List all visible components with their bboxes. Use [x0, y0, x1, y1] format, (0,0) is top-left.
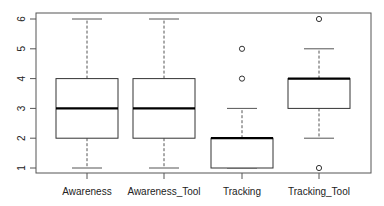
box-tracking-tool: [288, 16, 350, 170]
plot-svg: 123456 AwarenessAwareness_ToolTrackingTr…: [0, 0, 384, 206]
y-tick-label: 4: [16, 75, 27, 81]
boxes: [56, 16, 350, 170]
x-tick-label: Awareness_Tool: [127, 186, 200, 197]
x-tick-label: Awareness: [62, 186, 111, 197]
y-tick-label: 1: [16, 165, 27, 171]
outlier-point: [239, 46, 244, 51]
y-tick-label: 6: [16, 16, 27, 22]
outlier-point: [316, 16, 321, 21]
box-awareness: [56, 19, 118, 168]
boxplot-chart: 123456 AwarenessAwareness_ToolTrackingTr…: [0, 0, 384, 206]
x-tick-label: Tracking_Tool: [288, 186, 350, 197]
outlier-point: [316, 165, 321, 170]
iqr-box: [288, 79, 350, 109]
iqr-box: [211, 138, 273, 168]
outlier-point: [239, 76, 244, 81]
box-awareness-tool: [133, 19, 195, 168]
y-tick-label: 5: [16, 46, 27, 52]
y-axis: 123456: [16, 16, 36, 171]
y-tick-label: 2: [16, 135, 27, 141]
x-tick-label: Tracking: [223, 186, 261, 197]
box-tracking: [211, 46, 273, 168]
y-tick-label: 3: [16, 105, 27, 111]
x-axis: AwarenessAwareness_ToolTrackingTracking_…: [62, 173, 350, 197]
